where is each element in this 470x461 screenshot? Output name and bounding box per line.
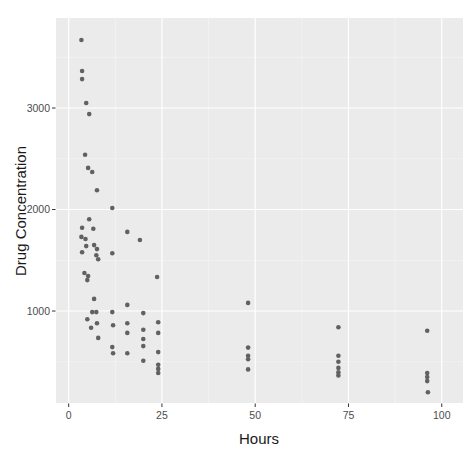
data-point bbox=[79, 235, 84, 240]
data-point bbox=[85, 278, 90, 283]
data-point bbox=[125, 230, 130, 235]
data-point bbox=[125, 331, 130, 336]
data-point bbox=[155, 275, 160, 280]
panel-background bbox=[56, 18, 463, 403]
x-tick-label: 100 bbox=[433, 409, 451, 421]
data-point bbox=[141, 311, 146, 316]
data-point bbox=[90, 310, 95, 315]
x-tick-label: 25 bbox=[156, 409, 168, 421]
data-point bbox=[95, 247, 100, 252]
data-point bbox=[92, 297, 97, 302]
data-point bbox=[156, 367, 161, 372]
data-point bbox=[156, 331, 161, 336]
data-point bbox=[141, 359, 146, 364]
data-point bbox=[95, 188, 100, 193]
data-point bbox=[138, 238, 143, 243]
data-point bbox=[84, 101, 89, 106]
data-point bbox=[83, 237, 88, 242]
data-point bbox=[80, 77, 85, 82]
data-point bbox=[92, 243, 97, 248]
data-point bbox=[96, 257, 101, 262]
data-point bbox=[79, 38, 84, 43]
y-tick-label: 3000 bbox=[27, 102, 51, 114]
data-point bbox=[246, 345, 251, 350]
data-point bbox=[125, 303, 130, 308]
data-point bbox=[125, 321, 130, 326]
plot-panel bbox=[56, 18, 463, 403]
data-point bbox=[86, 274, 91, 279]
data-point bbox=[80, 226, 85, 231]
data-point bbox=[80, 69, 85, 74]
data-point bbox=[336, 366, 341, 371]
y-tick-label: 2000 bbox=[27, 203, 51, 215]
y-axis-title: Drug Concentration bbox=[12, 146, 29, 276]
data-point bbox=[156, 320, 161, 325]
data-point bbox=[425, 379, 430, 384]
data-point bbox=[94, 310, 99, 315]
drug-concentration-scatter-plot: 0255075100100020003000 Hours Drug Concen… bbox=[0, 0, 470, 461]
data-point bbox=[87, 217, 92, 222]
data-point bbox=[94, 253, 99, 258]
data-point bbox=[141, 337, 146, 342]
data-point bbox=[426, 390, 431, 395]
data-point bbox=[246, 301, 251, 306]
data-point bbox=[336, 353, 341, 358]
x-tick-label: 75 bbox=[343, 409, 355, 421]
data-point bbox=[125, 351, 130, 356]
data-point bbox=[425, 375, 430, 380]
data-point bbox=[90, 170, 95, 175]
data-point bbox=[91, 227, 96, 232]
data-point bbox=[141, 344, 146, 349]
data-point bbox=[336, 325, 341, 330]
data-point bbox=[84, 244, 89, 249]
data-point bbox=[82, 271, 87, 276]
chart-canvas: 0255075100100020003000 Hours Drug Concen… bbox=[0, 0, 470, 461]
y-tick-label: 1000 bbox=[27, 305, 51, 317]
data-point bbox=[425, 329, 430, 334]
data-point bbox=[80, 250, 85, 255]
data-point bbox=[85, 317, 90, 322]
data-point bbox=[110, 206, 115, 211]
data-point bbox=[425, 371, 430, 376]
data-point bbox=[156, 350, 161, 355]
data-point bbox=[156, 363, 161, 368]
data-point bbox=[89, 326, 94, 331]
data-point bbox=[246, 367, 251, 372]
data-point bbox=[110, 345, 115, 350]
data-point bbox=[110, 251, 115, 256]
x-axis-title: Hours bbox=[239, 430, 279, 447]
data-point bbox=[110, 310, 115, 315]
data-point bbox=[87, 112, 92, 117]
data-point bbox=[156, 371, 161, 376]
data-point bbox=[111, 351, 116, 356]
data-point bbox=[336, 360, 341, 365]
data-point bbox=[336, 373, 341, 378]
data-point bbox=[96, 336, 101, 341]
data-point bbox=[95, 321, 100, 326]
data-point bbox=[246, 357, 251, 362]
data-point bbox=[111, 323, 116, 328]
data-point bbox=[141, 328, 146, 333]
x-tick-label: 0 bbox=[66, 409, 72, 421]
data-point bbox=[83, 152, 88, 157]
x-tick-label: 50 bbox=[249, 409, 261, 421]
data-point bbox=[86, 166, 91, 171]
